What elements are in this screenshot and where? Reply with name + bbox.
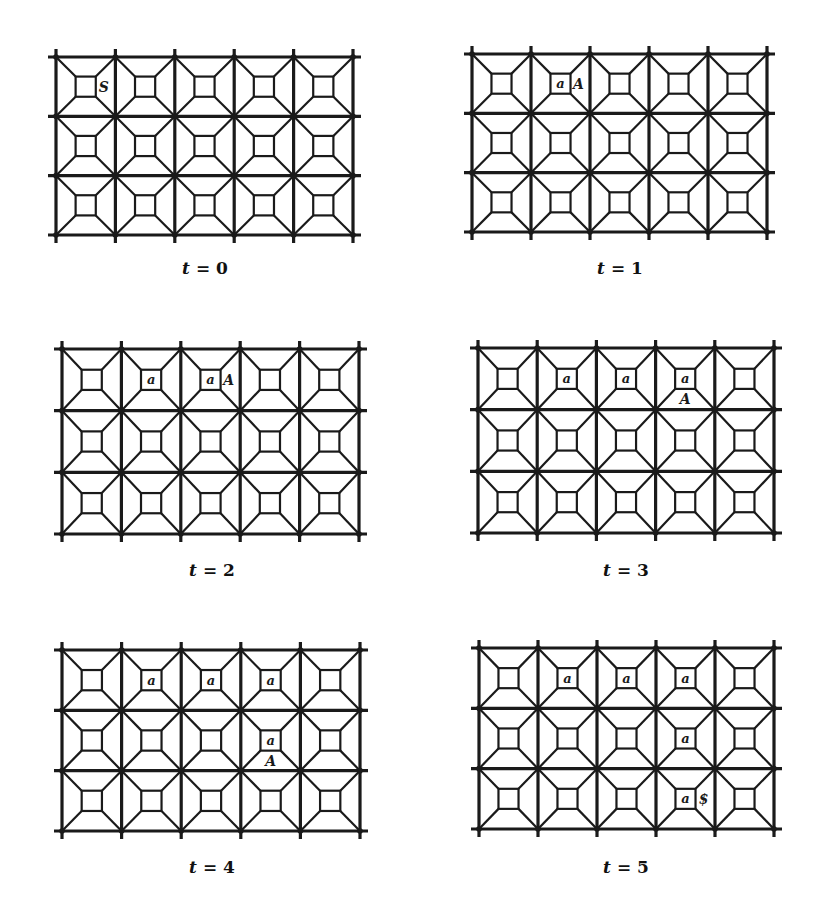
grid-cell (56, 116, 115, 175)
grid-node (528, 51, 534, 57)
grid-cell (656, 410, 715, 472)
panel-t1: aA (462, 44, 777, 242)
grid-cell (234, 116, 293, 175)
grid-node (291, 232, 297, 238)
inner-square (260, 493, 280, 513)
grid-node (357, 708, 363, 714)
grid-node (764, 170, 770, 176)
inner-square (727, 74, 747, 94)
agent-label: A (221, 372, 234, 388)
inner-square (201, 730, 221, 750)
grid-node (764, 229, 770, 235)
inner-square (675, 430, 695, 450)
grid-diagram: aA (462, 44, 777, 242)
inner-square (313, 77, 333, 97)
grid-cell (62, 650, 122, 710)
grid-node (119, 708, 125, 714)
grid-node (476, 766, 482, 772)
inner-square (313, 195, 333, 215)
grid-cell (300, 349, 359, 411)
grid-cell (596, 471, 655, 533)
grid-node (119, 647, 125, 653)
agent-label: A (571, 76, 584, 92)
grid-node (469, 111, 475, 117)
grid-cell (240, 472, 299, 534)
grid-node (712, 469, 718, 475)
grid-cell (122, 710, 182, 770)
grid-diagram: aaaaA (52, 640, 370, 841)
grid-cell (300, 771, 360, 831)
inner-square (550, 192, 570, 212)
grid-node (350, 114, 356, 120)
inner-square (141, 730, 161, 750)
grid-node (350, 232, 356, 238)
inner-square (76, 195, 96, 215)
grid-node (59, 708, 65, 714)
grid-node (238, 828, 244, 834)
inner-square (491, 74, 511, 94)
inner-square (76, 136, 96, 156)
grid-cell (181, 710, 241, 770)
grid-node (535, 826, 541, 832)
grid-cell (294, 57, 353, 116)
inner-square (320, 730, 340, 750)
caption-val: 1 (631, 258, 643, 278)
grid-cell (715, 471, 774, 533)
caption-val: 0 (216, 258, 228, 278)
inner-square (557, 492, 577, 512)
boxed-label: a (681, 671, 689, 686)
inner-square (141, 493, 161, 513)
inner-square (557, 728, 577, 748)
inner-square (734, 369, 754, 389)
grid-cell (121, 472, 180, 534)
grid-node (653, 826, 659, 832)
grid-node (119, 531, 125, 537)
inner-square (498, 492, 518, 512)
grid-node (291, 54, 297, 60)
grid-cell (115, 116, 174, 175)
grid-node (705, 111, 711, 117)
grid-node (771, 826, 777, 832)
grid-node (771, 407, 777, 413)
caption-var: t (189, 560, 197, 580)
inner-square (609, 74, 629, 94)
caption-eq: = (617, 857, 631, 877)
inner-square (319, 431, 339, 451)
grid-node (119, 470, 125, 476)
grid-node (59, 768, 65, 774)
grid-cell (649, 54, 708, 113)
caption-var: t (182, 258, 190, 278)
inner-square (201, 791, 221, 811)
inner-square (254, 136, 274, 156)
grid-node (59, 531, 65, 537)
panel-t2: aaA (52, 339, 369, 544)
inner-square (550, 133, 570, 153)
grid-node (119, 828, 125, 834)
grid-node (587, 111, 593, 117)
grid-diagram: aaaA (468, 338, 784, 543)
boxed-label: a (563, 671, 571, 686)
grid-node (712, 645, 718, 651)
grid-node (297, 470, 303, 476)
inner-square (82, 493, 102, 513)
grid-node (178, 346, 184, 352)
inner-square (668, 133, 688, 153)
grid-node (594, 345, 600, 351)
grid-node (653, 407, 659, 413)
grid-diagram: S (46, 47, 363, 245)
grid-cell (715, 410, 774, 472)
grid-node (764, 111, 770, 117)
inner-square (491, 192, 511, 212)
grid-node (653, 645, 659, 651)
grid-node (59, 408, 65, 414)
caption-eq: = (203, 560, 217, 580)
grid-cell (597, 769, 656, 829)
cell-mark: a (266, 673, 274, 688)
grid-cell (181, 411, 240, 473)
cell-mark: a (622, 371, 630, 386)
grid-node (237, 408, 243, 414)
boxed-label: a (147, 372, 155, 387)
grid-node (356, 408, 362, 414)
inner-square (498, 668, 518, 688)
grid-node (594, 826, 600, 832)
